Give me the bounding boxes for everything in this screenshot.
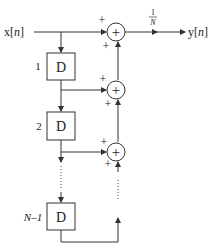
svg-text:D: D [56, 119, 66, 134]
adder-3-sign-left: + [101, 135, 108, 149]
adder-2-sign-bottom: + [105, 97, 112, 111]
delay-block-n-minus-1: D [47, 203, 75, 230]
adder-1-sign-left: + [99, 13, 106, 27]
block-diagram: x[n] D 1 D 2 D N–1 + + + + [0, 0, 218, 248]
svg-text:+: + [112, 144, 120, 160]
output-label: y[n] [188, 25, 208, 39]
delay-index-1: 1 [35, 60, 41, 72]
gain-label: 1 N [149, 8, 157, 27]
adder-2-sign-left: + [100, 72, 107, 86]
input-label: x[n] [4, 25, 24, 39]
svg-text:1: 1 [151, 8, 155, 17]
delay-block-2: D [47, 112, 75, 140]
svg-text:D: D [56, 210, 66, 225]
svg-text:D: D [56, 60, 66, 75]
svg-text:+: + [112, 82, 120, 98]
svg-text:+: + [112, 24, 120, 40]
delay-index-2: 2 [36, 120, 42, 132]
svg-text:N: N [149, 18, 156, 27]
delay-index-n-minus-1: N–1 [23, 211, 42, 223]
adder-1: + [107, 23, 125, 41]
delay-block-1: D [47, 53, 75, 80]
adder-3-sign-bottom: + [105, 157, 112, 171]
adder-1-sign-bottom: + [103, 39, 110, 53]
